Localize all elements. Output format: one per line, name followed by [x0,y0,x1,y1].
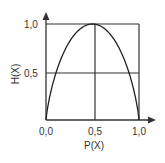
entropy-curve [46,24,139,120]
entropy-chart: 1,0 0,5 0,0 0,5 1,0 P(X) H(X) [0,0,165,163]
x-tick-0: 0,0 [39,126,53,137]
y-tick-labels: 1,0 0,5 [24,19,38,79]
x-tick-1: 1,0 [132,126,146,137]
y-axis-arrow-icon [43,12,50,20]
x-tick-labels: 0,0 0,5 1,0 [39,126,146,137]
x-axis-arrow-icon [148,117,156,124]
y-tick-1: 1,0 [24,19,38,30]
reference-lines [46,24,139,120]
x-tick-0-5: 0,5 [88,126,102,137]
y-axis-label: H(X) [10,64,21,85]
x-axis-label: P(X) [84,140,104,151]
y-tick-0-5: 0,5 [24,68,38,79]
